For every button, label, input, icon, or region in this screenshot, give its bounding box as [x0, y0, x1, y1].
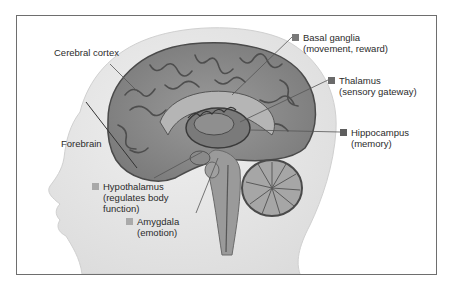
- marker-square-icon: [92, 183, 99, 190]
- label-hippocampus: Hippocampus (memory): [340, 127, 409, 149]
- label-forebrain: Forebrain: [61, 138, 102, 149]
- label-cerebral-cortex-title: Cerebral cortex: [54, 47, 119, 58]
- label-thalamus-desc: (sensory gateway): [328, 86, 417, 97]
- marker-square-icon: [340, 129, 347, 136]
- label-cerebral-cortex: Cerebral cortex: [54, 47, 119, 58]
- label-hypothalamus-desc1: (regulates body: [92, 192, 168, 203]
- marker-square-icon: [328, 77, 335, 84]
- label-thalamus-title: Thalamus: [339, 75, 381, 86]
- marker-square-icon: [126, 218, 133, 225]
- label-basal-ganglia-desc: (movement, reward): [292, 43, 388, 54]
- label-amygdala-desc: (emotion): [126, 227, 179, 238]
- cerebellum: [242, 160, 302, 216]
- label-forebrain-title: Forebrain: [61, 138, 102, 149]
- label-hypothalamus-desc2: function): [92, 203, 168, 214]
- marker-square-icon: [292, 34, 299, 41]
- label-basal-ganglia-title: Basal ganglia: [303, 32, 360, 43]
- label-hippocampus-title: Hippocampus: [351, 127, 409, 138]
- amygdala-shape: [205, 162, 219, 178]
- label-hypothalamus: Hypothalamus (regulates body function): [92, 181, 168, 214]
- label-basal-ganglia: Basal ganglia (movement, reward): [292, 32, 388, 54]
- label-thalamus: Thalamus (sensory gateway): [328, 75, 417, 97]
- label-hypothalamus-title: Hypothalamus: [103, 181, 164, 192]
- label-amygdala-title: Amygdala: [137, 216, 179, 227]
- label-amygdala: Amygdala (emotion): [126, 216, 179, 238]
- label-hippocampus-desc: (memory): [340, 138, 409, 149]
